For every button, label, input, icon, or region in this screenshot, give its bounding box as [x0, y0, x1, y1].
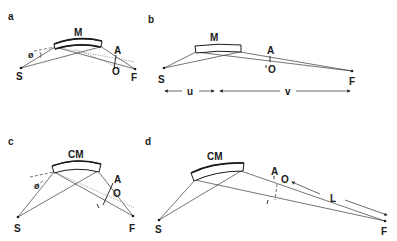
mirror-cm — [191, 163, 244, 181]
panel-label-d: d — [145, 136, 151, 147]
source-point — [17, 216, 20, 219]
ray — [164, 52, 196, 68]
ray — [241, 171, 385, 221]
origin-label: O — [281, 174, 289, 185]
source-point — [20, 67, 23, 70]
ray-dotted — [55, 47, 135, 62]
ray — [21, 47, 55, 68]
mirror-m — [195, 44, 241, 53]
ray — [18, 172, 54, 217]
angle-label: ø — [28, 50, 34, 60]
ray — [240, 52, 352, 71]
origin-label: O — [113, 188, 121, 199]
focus-label: F — [131, 72, 137, 83]
origin-label: O — [112, 66, 120, 77]
panel-b: b M S F A O u v — [148, 14, 355, 97]
aperture-label: A — [114, 45, 121, 56]
aperture-label: A — [267, 45, 274, 56]
length-label: L — [330, 193, 336, 204]
focus-point — [351, 70, 354, 73]
source-label: S — [158, 74, 165, 85]
source-label: S — [16, 71, 23, 82]
optics-figure: a M ø S F A O b — [0, 0, 397, 241]
mirror-label: CM — [68, 149, 84, 160]
ray — [195, 180, 385, 221]
u-label: u — [187, 86, 193, 97]
aperture-tick — [97, 204, 99, 208]
focus-label: F — [381, 226, 387, 237]
focus-point — [384, 220, 387, 223]
ray-dotted — [54, 172, 135, 208]
aperture-tick — [267, 200, 268, 204]
focus-label: F — [129, 223, 135, 234]
mirror-label: M — [210, 32, 218, 43]
ray — [55, 47, 135, 69]
panel-label-c: c — [8, 136, 14, 147]
panel-a: a M ø S F A O — [8, 11, 137, 83]
v-label: v — [285, 86, 291, 97]
focus-point — [132, 215, 135, 218]
panel-c: c CM ø S F A O — [8, 136, 135, 234]
l-arrow-left — [292, 182, 320, 194]
source-point — [163, 67, 166, 70]
focus-label: F — [349, 76, 355, 87]
source-label: S — [14, 223, 21, 234]
angle-label: ø — [34, 181, 40, 191]
aperture-label: A — [114, 174, 121, 185]
ray — [164, 52, 240, 68]
panel-label-b: b — [148, 14, 154, 25]
panel-label-a: a — [8, 11, 14, 22]
l-arrow-right — [345, 200, 387, 215]
angle-arc — [40, 52, 41, 58]
focus-point — [134, 68, 137, 71]
source-label: S — [155, 224, 162, 235]
origin-label: O — [268, 64, 276, 75]
panel-d: d CM S F A O L — [145, 136, 387, 237]
ray — [159, 180, 195, 220]
mirror-label: CM — [207, 151, 223, 162]
ray — [18, 171, 98, 217]
source-point — [158, 219, 161, 222]
aperture-label: A — [271, 166, 278, 177]
mirror-label: M — [74, 27, 82, 38]
